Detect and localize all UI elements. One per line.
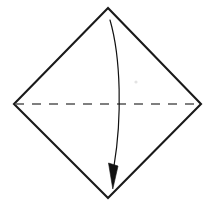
origami-diagram [0, 0, 214, 208]
diagram-canvas [0, 0, 214, 208]
scan-speck [134, 80, 137, 83]
